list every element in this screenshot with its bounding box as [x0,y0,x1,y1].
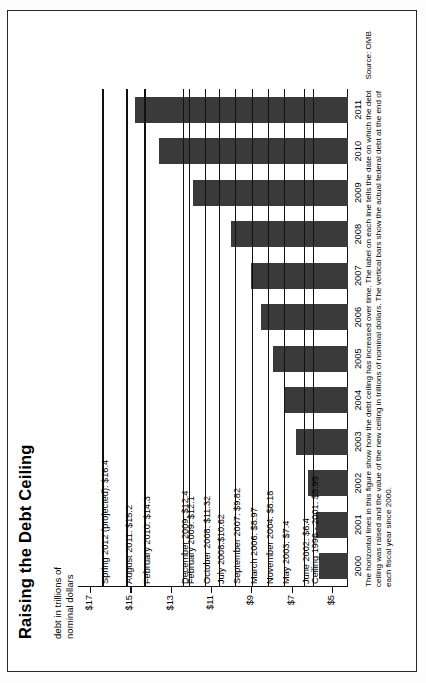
figure-footnote: The horizontal lines in this figure show… [364,87,395,587]
x-axis-tick-label: 2003 [353,421,363,463]
x-axis-tick-label: 2001 [353,504,363,546]
ceiling-line-label: Spring 2012 (projected): $16.4 [100,460,110,584]
ceiling-line [284,89,286,587]
y-axis-tick [332,587,333,593]
ceiling-line-label: July 2008:$10.62 [216,514,226,584]
x-axis-tick-label: 2004 [353,380,363,422]
x-axis-tick-label: 2005 [353,338,363,380]
bar [159,138,348,164]
x-axis-tick-label: 2010 [353,131,363,173]
y-axis-tick [171,587,172,593]
y-axis-tick-label: $5 [326,595,336,627]
ceiling-line [304,89,306,587]
y-axis-tick-label: $7 [286,595,296,627]
figure: Raising the Debt Ceiling debt in trillio… [12,17,412,665]
ceiling-line-label: November 2004: $8.18 [265,491,275,584]
y-axis-tick-label: $11 [205,595,215,627]
y-axis-tick [90,587,91,593]
y-axis-tick-label: $15 [124,595,134,627]
bar [284,387,348,413]
figure-frame: Raising the Debt Ceiling debt in trillio… [7,10,417,672]
y-axis-tick [211,587,212,593]
y-axis-tick [130,587,131,593]
x-axis-tick-label: 2000 [353,546,363,588]
x-axis-tick-label: 2006 [353,297,363,339]
x-axis-tick-label: 2011 [353,89,363,131]
x-axis-tick-label: 2009 [353,172,363,214]
rotated-figure-wrapper: Raising the Debt Ceiling debt in trillio… [12,17,412,665]
y-axis-caption: debt in trillions of nominal dollars [52,567,75,639]
ceiling-line-label: March 2006: $8.97 [249,507,259,584]
y-axis-tick [292,587,293,593]
figure-source: Source: OMB [364,31,373,80]
bar [316,512,348,538]
ceiling-line-label: October 2008: $11.32 [202,496,212,584]
ceiling-line-label: February 2010: $14.3 [142,496,152,584]
bar [193,180,348,206]
scanned-page: Raising the Debt Ceiling debt in trillio… [0,0,426,683]
bar [231,221,348,247]
x-axis-tick-label: 2002 [353,463,363,505]
bar [135,97,348,123]
y-axis-tick-label: $17 [84,595,94,627]
ceiling-line-label: August 2011: $15.2 [124,505,134,584]
ceiling-line-label: May 2003: $7.4 [281,521,291,584]
ceiling-line-label: Ceiling 1996 - 2001: $5.95 [310,476,320,584]
y-axis-tick-label: $9 [245,595,255,627]
x-axis-tick-label: 2008 [353,214,363,256]
y-axis-tick [251,587,252,593]
bar [319,553,348,579]
ceiling-line-label: September 2007: $9.82 [232,488,242,584]
x-axis-tick-label: 2007 [353,255,363,297]
y-axis-line [78,586,348,587]
bar [251,263,348,289]
plot-area: $5$7$9$11$13$15$17 Spring 2012 (projecte… [78,89,348,587]
y-axis-tick-label: $13 [165,595,175,627]
ceiling-line [219,89,221,587]
page-title: Raising the Debt Ceiling [16,444,35,639]
ceiling-line-label: February 2009: $12.1 [186,496,196,584]
